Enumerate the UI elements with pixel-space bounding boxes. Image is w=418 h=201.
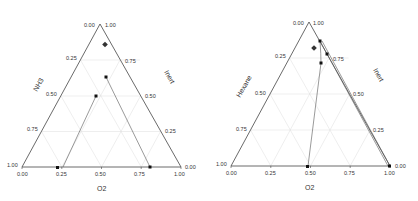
right-axis-label: Inert: [372, 67, 385, 83]
data-point: [105, 76, 108, 79]
data-point: [306, 165, 309, 168]
left-tick: 0.50: [46, 91, 57, 97]
left-axis-label: Hexane: [235, 74, 253, 98]
left-axis-label: NH3: [32, 77, 45, 93]
right-tick: 1.00: [313, 20, 324, 26]
right-tick: 0.25: [165, 128, 176, 134]
left-tick: 0.25: [275, 53, 286, 59]
right-tick: 0.25: [373, 127, 384, 133]
bottom-axis-label: O2: [305, 184, 314, 191]
bottom-tick: 0.75: [344, 170, 355, 176]
left-tick: 1.00: [216, 161, 227, 167]
data-point: [95, 95, 98, 98]
bottom-tick: 0.50: [305, 170, 316, 176]
right-tick: 0.75: [333, 56, 344, 62]
left-tick: 1.00: [7, 162, 18, 168]
bottom-tick: 0.50: [95, 171, 106, 177]
left-tick: 0.75: [236, 126, 247, 132]
data-point: [149, 166, 152, 169]
grid-lines: [42, 60, 161, 167]
right-tick: 1.00: [105, 22, 116, 28]
left-tick: 0.75: [27, 126, 38, 132]
data-point: [56, 166, 59, 169]
data-point: [388, 165, 391, 168]
ternary-chart-nh3: 0.00 0.25 0.50 0.75 1.00 1.00 0.75 0.50 …: [7, 22, 196, 192]
data-point: [320, 62, 323, 65]
right-axis-label: Inert: [163, 69, 176, 85]
right-tick: 0.50: [353, 91, 364, 97]
right-tick: 0.00: [185, 164, 196, 170]
tie-line: [106, 77, 150, 167]
left-tick: 0.00: [84, 22, 95, 28]
bottom-tick: 0.00: [226, 170, 237, 176]
bottom-tick: 0.25: [265, 170, 276, 176]
bottom-tick: 0.00: [17, 171, 28, 177]
left-tick: 0.00: [293, 20, 304, 26]
ternary-chart-hexane: 0.00 0.25 0.50 0.75 1.00 1.00 0.75 0.50 …: [216, 20, 406, 191]
tie-line: [320, 41, 388, 166]
left-tick: 0.50: [255, 90, 266, 96]
diamond-marker: [102, 42, 108, 48]
bottom-tick: 0.75: [134, 171, 145, 177]
bottom-tick: 1.00: [174, 171, 185, 177]
right-tick: 0.50: [145, 93, 156, 99]
boundary-curve: [308, 41, 321, 166]
right-tick: 0.75: [125, 58, 136, 64]
right-tick: 0.00: [395, 163, 406, 169]
bottom-axis-label: O2: [97, 185, 106, 192]
data-point: [319, 40, 322, 43]
data-point: [326, 53, 329, 56]
left-tick: 0.25: [66, 55, 77, 61]
ternary-figure: 0.00 0.25 0.50 0.75 1.00 1.00 0.75 0.50 …: [0, 0, 418, 201]
bottom-tick: 0.25: [56, 171, 67, 177]
bottom-tick: 1.00: [384, 170, 395, 176]
diamond-marker: [311, 45, 317, 51]
